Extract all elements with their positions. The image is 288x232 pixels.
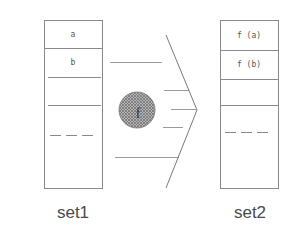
set1-box: a b [45,21,103,189]
function-node: f [119,92,155,128]
set2-label: set2 [234,203,266,222]
function-mapping-diagram: a b f (a) f (b) f set1 set2 [0,0,288,232]
set2-box: f (a) f (b) [221,21,279,189]
set1-cell-b: b [71,58,76,67]
chevron-arrow-icon [166,35,197,188]
set1-label: set1 [57,203,89,222]
set2-cell-fa: f (a) [237,31,261,40]
set2-cell-fb: f (b) [237,60,261,69]
set1-cell-a: a [71,30,76,39]
function-label: f [136,106,141,121]
